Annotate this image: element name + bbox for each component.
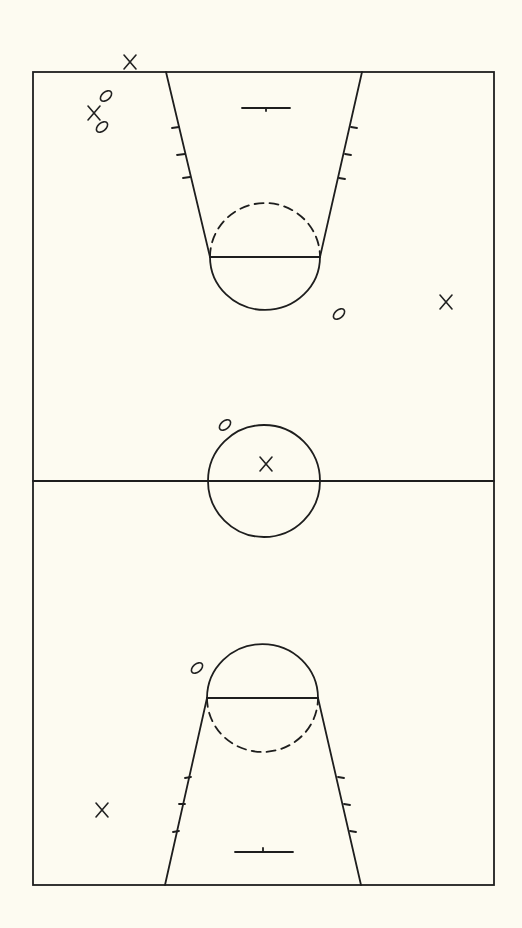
player-markers bbox=[88, 55, 452, 817]
bottom-free-throw-circle-solid bbox=[207, 644, 318, 698]
top-key bbox=[166, 72, 362, 310]
bottom-hash-right-2 bbox=[344, 804, 350, 805]
bottom-lane-right bbox=[318, 698, 361, 885]
defense-player-o-marker bbox=[98, 89, 113, 103]
offense-player-x-marker bbox=[260, 457, 272, 471]
top-hash-left-2 bbox=[177, 154, 185, 155]
bottom-hash-left-3 bbox=[173, 831, 179, 832]
basketball-court bbox=[0, 0, 522, 928]
offense-player-x-marker bbox=[96, 803, 108, 817]
top-hash-left-3 bbox=[183, 177, 190, 178]
court-diagram bbox=[0, 0, 522, 928]
defense-player-o-marker bbox=[189, 661, 204, 675]
offense-player-x-marker bbox=[124, 55, 136, 69]
defense-player-o-marker bbox=[331, 307, 346, 321]
top-lane-right bbox=[320, 72, 362, 257]
offense-player-x-marker bbox=[88, 106, 100, 120]
bottom-hash-left-1 bbox=[185, 777, 191, 778]
bottom-lane-left bbox=[165, 698, 207, 885]
top-lane-left bbox=[166, 72, 210, 257]
defense-player-o-marker bbox=[217, 418, 232, 432]
defense-player-o-marker bbox=[94, 120, 109, 134]
top-hash-right-1 bbox=[351, 127, 357, 128]
bottom-key bbox=[165, 644, 361, 885]
offense-player-x-marker bbox=[440, 295, 452, 309]
top-free-throw-circle-dashed bbox=[210, 203, 320, 257]
top-free-throw-circle-solid bbox=[210, 257, 320, 310]
bottom-hash-right-1 bbox=[338, 777, 344, 778]
bottom-hash-right-3 bbox=[350, 831, 356, 832]
top-hash-right-3 bbox=[339, 178, 345, 179]
court-boundary bbox=[33, 72, 494, 885]
top-hash-right-2 bbox=[345, 154, 351, 155]
bottom-free-throw-circle-dashed bbox=[207, 698, 318, 752]
top-hash-left-1 bbox=[172, 127, 179, 128]
